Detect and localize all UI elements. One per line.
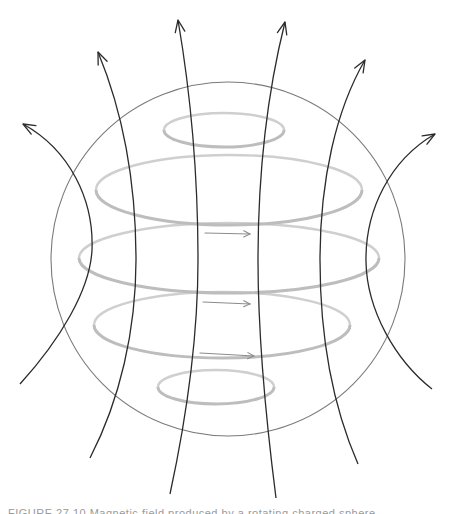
current-ring-back-arc [79,223,379,258]
field-lines [20,20,435,498]
current-ring-back-arc [158,370,274,387]
current-ring [164,130,284,147]
arrowhead-icon [422,134,435,144]
current-direction-arrows [200,231,254,359]
magnetic-field-diagram [0,0,450,514]
current-ring-back-arc [96,155,362,190]
field-line [170,20,198,494]
current-ring [79,258,379,293]
current-direction-arrow-icon [205,231,250,237]
field-line [320,60,365,464]
field-line [90,52,136,458]
field-line [366,134,435,389]
cut-off-caption: FIGURE 27.10 Magnetic field produced by … [8,508,448,514]
field-line [258,22,287,498]
sphere-outline [51,82,405,436]
current-ring [94,325,350,358]
arrowhead-icon [23,124,36,134]
current-ring [158,387,274,404]
arrowhead-icon [355,60,365,73]
current-direction-arrow-icon [203,301,250,307]
